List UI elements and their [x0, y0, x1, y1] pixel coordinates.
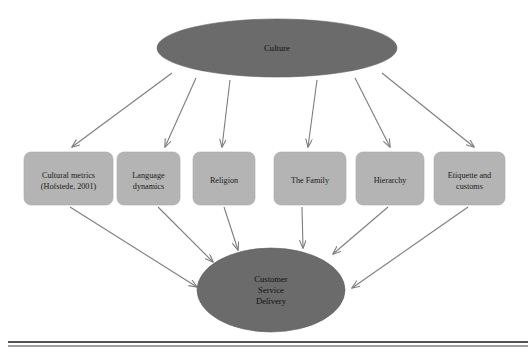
arrow-the-family-to-customer-service-delivery — [302, 207, 303, 248]
factor-label-line: Etiquette and — [448, 171, 491, 180]
culture-service-delivery-diagram: Culture Cultural metrics(Hofstede, 2001)… — [0, 0, 532, 355]
node-customer-service-delivery[interactable]: CustomerServiceDelivery — [197, 248, 345, 332]
arrow-culture-to-cultural-metrics — [72, 73, 172, 147]
culture-label: Culture — [264, 43, 290, 53]
factor-label-line: Religion — [210, 176, 238, 185]
factor-node-etiquette-and-customs[interactable]: Etiquette andcustoms — [434, 152, 505, 205]
factor-label-line: Language — [132, 171, 165, 180]
factor-node-religion[interactable]: Religion — [193, 152, 255, 205]
factor-node-hierarchy[interactable]: Hierarchy — [356, 152, 424, 205]
customer-service-delivery-label-line: Service — [258, 285, 284, 295]
factor-label-line: customs — [456, 182, 483, 191]
arrow-hierarchy-to-customer-service-delivery — [333, 207, 388, 254]
factor-label-line: The Family — [291, 176, 330, 185]
arrow-religion-to-customer-service-delivery — [224, 207, 238, 250]
factor-node-the-family[interactable]: The Family — [274, 152, 346, 205]
customer-service-delivery-label: CustomerServiceDelivery — [254, 274, 288, 306]
factor-label-line: Hierarchy — [374, 176, 408, 185]
factor-label-line: dynamics — [133, 182, 164, 191]
factor-node-cultural-metrics[interactable]: Cultural metrics(Hofstede, 2001) — [24, 152, 113, 205]
factor-node-group: Cultural metrics(Hofstede, 2001)Language… — [24, 152, 505, 205]
customer-service-delivery-label-line: Customer — [254, 274, 288, 284]
node-culture[interactable]: Culture — [157, 19, 397, 77]
arrow-culture-to-hierarchy — [355, 78, 390, 147]
arrow-culture-to-religion — [222, 80, 230, 147]
arrow-cultural-metrics-to-customer-service-delivery — [70, 207, 197, 287]
factor-label-line: Cultural metrics — [42, 171, 95, 180]
arrow-culture-to-etiquette-and-customs — [382, 73, 474, 147]
footer-divider — [8, 342, 528, 346]
arrow-language-dynamics-to-customer-service-delivery — [158, 207, 213, 262]
diagram-canvas: Culture Cultural metrics(Hofstede, 2001)… — [0, 0, 532, 355]
arrow-culture-to-language-dynamics — [165, 78, 196, 147]
arrow-culture-to-the-family — [308, 80, 317, 147]
factor-node-language-dynamics[interactable]: Languagedynamics — [117, 152, 180, 205]
arrow-etiquette-and-customs-to-customer-service-delivery — [352, 207, 468, 288]
customer-service-delivery-label-line: Delivery — [256, 296, 287, 306]
factor-label-line: (Hofstede, 2001) — [41, 182, 97, 191]
edge-group-culture-to-factors — [72, 73, 474, 147]
